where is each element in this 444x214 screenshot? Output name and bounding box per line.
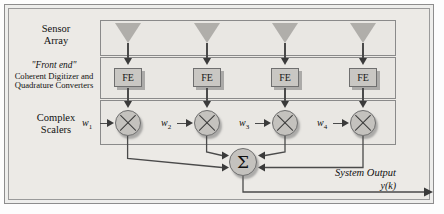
weight-symbol-4: w [317, 117, 324, 128]
weight-label-2: w2 [161, 117, 171, 131]
sensor-triangle-2 [194, 23, 220, 43]
sensor-array-line1: Sensor [42, 23, 71, 34]
output-caption: System Output y(k) [335, 167, 396, 192]
fe-arrowhead-4 [359, 101, 367, 108]
weight-sub-1: 1 [89, 123, 93, 131]
front-end-title: "Front end" [6, 60, 102, 71]
multiplier-3 [272, 110, 298, 136]
complex-scalers-line2: Scalers [41, 124, 71, 135]
multiplier-2 [194, 110, 220, 136]
weight-symbol-1: w [82, 117, 89, 128]
sensor-arrowhead-1 [124, 58, 132, 65]
weight-arrowhead-1 [107, 119, 114, 127]
weight-label-1: w1 [82, 117, 92, 131]
weight-sub-4: 4 [324, 123, 328, 131]
sensor-arrowhead-4 [359, 58, 367, 65]
multiplier-1 [115, 110, 141, 136]
fe-arrowhead-3 [281, 101, 289, 108]
label-front-end: "Front end" Coherent Digitizer and Quadr… [6, 60, 102, 91]
sensor-arrowhead-3 [281, 58, 289, 65]
sensor-arrowhead-2 [203, 58, 211, 65]
weight-arrowhead-2 [186, 119, 193, 127]
weight-symbol-3: w [239, 117, 246, 128]
output-caption-line2: y(k) [335, 180, 396, 192]
front-end-line1: Coherent Digitizer and [15, 71, 94, 81]
fe-arrowhead-2 [203, 101, 211, 108]
sensor-triangle-4 [350, 23, 376, 43]
label-sensor-array: Sensor Array [14, 23, 98, 47]
multiplier-4 [350, 110, 376, 136]
beamformer-diagram: Sensor Array "Front end" Coherent Digiti… [0, 0, 444, 214]
sensor-triangle-1 [115, 23, 141, 43]
front-end-line2: Quadrature Converters [15, 80, 94, 90]
weight-symbol-2: w [161, 117, 168, 128]
sensor-array-line2: Array [44, 35, 69, 46]
summation-node: Σ [229, 148, 257, 176]
output-caption-line1: System Output [335, 167, 396, 180]
fe-box-4: FE [349, 68, 377, 87]
weight-label-4: w4 [317, 117, 327, 131]
weight-sub-3: 3 [246, 123, 250, 131]
fe-box-3: FE [271, 68, 299, 87]
weight-sub-2: 2 [168, 123, 172, 131]
fe-box-1: FE [114, 68, 142, 87]
fe-arrowhead-1 [124, 101, 132, 108]
weight-arrowhead-3 [264, 119, 271, 127]
weight-arrowhead-4 [342, 119, 349, 127]
complex-scalers-line1: Complex [37, 112, 76, 123]
fe-box-2: FE [193, 68, 221, 87]
sensor-triangle-3 [272, 23, 298, 43]
weight-label-3: w3 [239, 117, 249, 131]
